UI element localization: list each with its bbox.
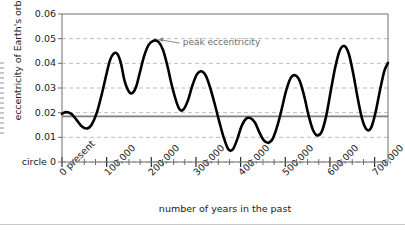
- y-ticks: [58, 14, 62, 162]
- chart-figure: eccentricity of Earth's orbit circle 00.…: [0, 0, 405, 231]
- peak-annotation-arrow: [158, 37, 180, 43]
- plot-canvas: [0, 0, 405, 231]
- bottom-divider: [0, 224, 405, 225]
- peak-annotation-label: peak eccentricity: [183, 37, 261, 47]
- data-series-eccentricity: [62, 40, 388, 150]
